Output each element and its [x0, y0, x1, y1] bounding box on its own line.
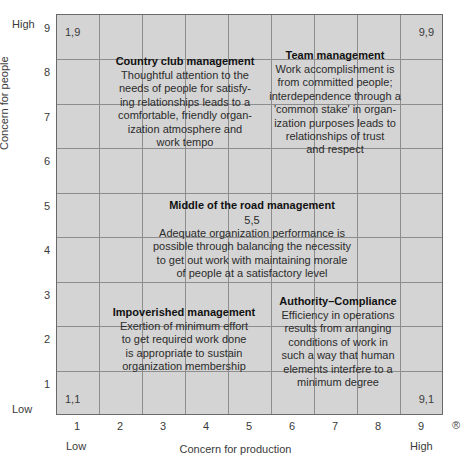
- gridline-horizontal: [57, 193, 442, 194]
- middle-coordinate: 5,5: [127, 213, 377, 227]
- quadrant-authority-compliance: Authority–Compliance Efficiency in opera…: [253, 294, 423, 389]
- team-line: Work accomplishment is: [249, 63, 421, 76]
- country-club-line: work tempo: [95, 136, 275, 149]
- x-tick-3: 3: [153, 420, 173, 432]
- y-tick-9: 9: [36, 22, 50, 34]
- quadrant-team-management: Team management Work accomplishment is f…: [249, 48, 421, 157]
- country-club-body: Thoughtful attention to the needs of peo…: [95, 69, 275, 149]
- impoverished-line: is appropriate to sustain: [94, 347, 274, 360]
- team-line: and respect: [249, 143, 421, 156]
- team-line: relationships of trust: [249, 130, 421, 143]
- middle-title: Middle of the road management: [127, 198, 377, 212]
- country-club-line: Thoughtful attention to the: [95, 69, 275, 82]
- y-tick-5: 5: [36, 200, 50, 212]
- y-axis-low-label: Low: [12, 403, 32, 415]
- authority-line: conditions of work in: [253, 336, 423, 349]
- team-line: from committed people;: [249, 76, 421, 89]
- y-tick-1: 1: [36, 378, 50, 390]
- authority-line: Efficiency in operations: [253, 309, 423, 322]
- quadrant-impoverished-management: Impoverished management Exertion of mini…: [94, 305, 274, 374]
- y-axis-high-label: High: [12, 18, 35, 30]
- team-line: interdependence through a: [249, 90, 421, 103]
- gridline-horizontal: [57, 282, 442, 283]
- y-tick-4: 4: [36, 244, 50, 256]
- team-body: Work accomplishment is from committed pe…: [249, 63, 421, 157]
- x-tick-1: 1: [67, 420, 87, 432]
- country-club-line: ization atmosphere and: [95, 123, 275, 136]
- quadrant-country-club-management: Country club management Thoughtful atten…: [95, 54, 275, 149]
- registered-trademark-icon: ®: [452, 419, 460, 431]
- authority-line: results from arranging: [253, 322, 423, 335]
- impoverished-line: to get required work done: [94, 333, 274, 346]
- x-tick-8: 8: [368, 420, 388, 432]
- middle-line: possible through balancing the necessity: [127, 240, 377, 253]
- authority-line: minimum degree: [253, 376, 423, 389]
- y-axis-title: Concern for people: [0, 30, 10, 150]
- corner-label-9-1: 9,1: [419, 393, 434, 405]
- country-club-line: ing relationships leads to a: [95, 96, 275, 109]
- x-axis-title: Concern for production: [0, 443, 471, 455]
- corner-label-1-9: 1,9: [65, 26, 80, 38]
- team-title: Team management: [249, 48, 421, 62]
- middle-line: to get out work with maintaining morale: [127, 254, 377, 267]
- country-club-line: needs of people for satisfy-: [95, 82, 275, 95]
- middle-line: of people at a satisfactory level: [127, 267, 377, 280]
- team-line: ization purposes leads to: [249, 117, 421, 130]
- x-tick-9: 9: [411, 420, 431, 432]
- x-tick-5: 5: [239, 420, 259, 432]
- quadrant-middle-of-the-road-management: Middle of the road management 5,5 Adequa…: [127, 198, 377, 281]
- y-tick-2: 2: [36, 333, 50, 345]
- y-tick-3: 3: [36, 289, 50, 301]
- authority-title: Authority–Compliance: [253, 294, 423, 308]
- corner-label-9-9: 9,9: [419, 26, 434, 38]
- country-club-title: Country club management: [95, 54, 275, 68]
- impoverished-line: organization membership: [94, 360, 274, 373]
- authority-body: Efficiency in operations results from ar…: [253, 309, 423, 389]
- managerial-grid-plot-area: 1,9 9,9 1,1 9,1 Country club management …: [56, 14, 443, 415]
- middle-line: Adequate organization performance is: [127, 227, 377, 240]
- x-tick-6: 6: [282, 420, 302, 432]
- middle-body: Adequate organization performance is pos…: [127, 227, 377, 281]
- y-tick-6: 6: [36, 155, 50, 167]
- impoverished-title: Impoverished management: [94, 305, 274, 319]
- team-line: 'common stake' in organ-: [249, 103, 421, 116]
- country-club-line: comfortable, friendly organ-: [95, 109, 275, 122]
- y-tick-8: 8: [36, 66, 50, 78]
- authority-line: elements interfere to a: [253, 363, 423, 376]
- x-tick-4: 4: [196, 420, 216, 432]
- impoverished-body: Exertion of minimum effort to get requir…: [94, 320, 274, 374]
- authority-line: such a way that human: [253, 349, 423, 362]
- corner-label-1-1: 1,1: [65, 393, 80, 405]
- x-tick-7: 7: [325, 420, 345, 432]
- y-tick-7: 7: [36, 111, 50, 123]
- impoverished-line: Exertion of minimum effort: [94, 320, 274, 333]
- x-tick-2: 2: [110, 420, 130, 432]
